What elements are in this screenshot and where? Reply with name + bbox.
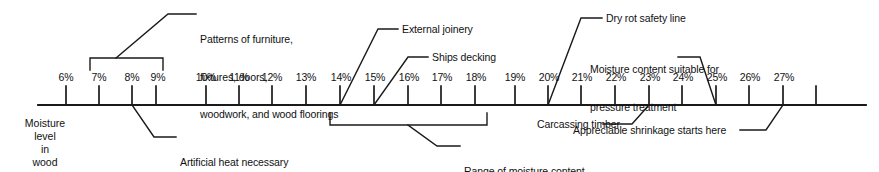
tick-label-26: 26%	[740, 72, 760, 83]
tick-label-18: 18%	[466, 72, 486, 83]
callout-pressure-treatment-line2: pressure treatment	[590, 101, 719, 114]
tick-label-15: 15%	[365, 72, 385, 83]
tick-label-7: 7%	[92, 72, 107, 83]
bracket-furniture	[90, 58, 163, 70]
callout-furniture-line1: Patterns of furniture,	[200, 33, 338, 46]
callout-dry-rot: Dry rot safety line	[606, 12, 686, 25]
leader-furniture	[116, 14, 196, 58]
tick-label-20: 20%	[539, 72, 559, 83]
axis-caption: Moisture level in wood	[6, 117, 84, 169]
bracket-air-seasoned	[330, 113, 487, 125]
callout-air-seasoned-line1: Range of moisture content	[464, 165, 616, 172]
callout-ships-decking: Ships decking	[432, 51, 496, 64]
leader-external-joinery	[340, 29, 398, 105]
tick-label-27: 27%	[774, 72, 794, 83]
tick-label-16: 16%	[399, 72, 419, 83]
callout-furniture: Patterns of furniture, fixtures, doors, …	[200, 8, 338, 146]
tick-label-9: 9%	[151, 72, 166, 83]
callout-appreciable-shrinkage: Appreciable shrinkage starts here	[573, 124, 726, 137]
leader-shrinkage	[740, 105, 783, 130]
moisture-content-scale-diagram: 6% 7% 8% 9% 10% 11% 12% 13% 14% 15% 16% …	[0, 0, 879, 172]
callout-external-joinery: External joinery	[402, 23, 473, 36]
callout-artificial-heat-line1: Artificial heat necessary	[180, 156, 288, 169]
callout-pressure-treatment-line1: Moisture content suitable for	[590, 63, 719, 76]
callout-artificial-heat: Artificial heat necessary for sufficient…	[180, 131, 288, 172]
tick-label-8: 8%	[125, 72, 140, 83]
callout-air-seasoned: Range of moisture content attainable in …	[464, 140, 616, 172]
tick-label-17: 17%	[432, 72, 452, 83]
leader-air-seasoned	[408, 125, 460, 146]
tick-label-6: 6%	[59, 72, 74, 83]
leader-artificial-heat	[132, 105, 176, 137]
callout-furniture-line3: woodwork, and wood floorings	[200, 108, 338, 121]
callout-furniture-line2: fixtures, doors,	[200, 71, 338, 84]
tick-label-19: 19%	[505, 72, 525, 83]
